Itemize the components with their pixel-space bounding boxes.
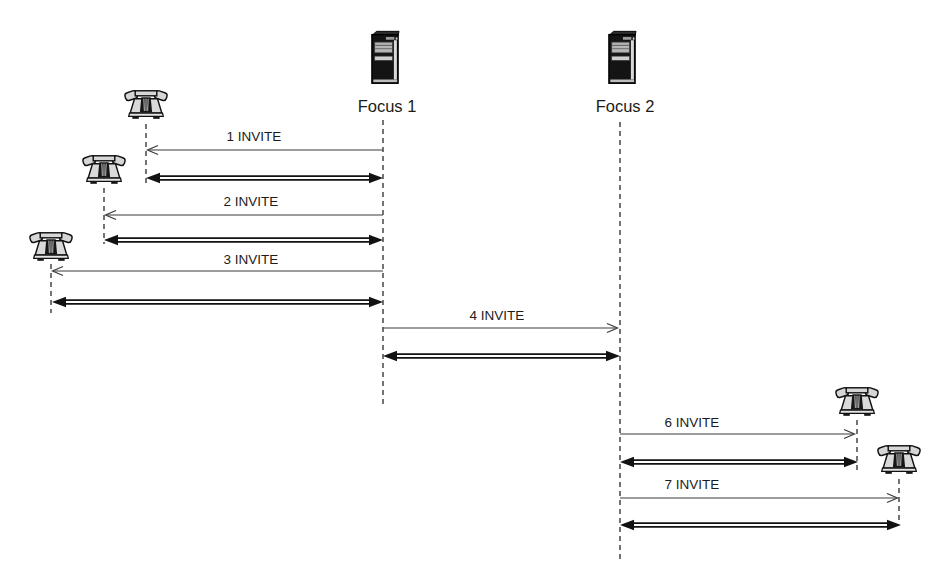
dialog-arrow	[104, 235, 383, 245]
request-arrow	[383, 324, 618, 333]
actor-label: Focus 2	[596, 97, 655, 115]
desk-telephone-icon	[82, 155, 126, 184]
message-label: 1 INVITE	[227, 129, 282, 144]
message-label: 3 INVITE	[224, 252, 279, 267]
desk-telephone-icon	[835, 387, 879, 416]
scanned-figure-page: 1 INVITE 2 INVITE	[0, 0, 944, 585]
lifelines	[51, 120, 899, 562]
server-tower-icon	[609, 31, 636, 83]
actor-focus-2: Focus 2	[596, 31, 655, 115]
request-arrow	[53, 267, 384, 276]
dialog-arrow	[620, 520, 901, 530]
actor-phone-5	[877, 445, 921, 474]
actor-phone-1	[124, 90, 168, 119]
request-arrow	[620, 430, 855, 439]
dialog-arrow	[620, 457, 858, 467]
server-tower-icon	[372, 31, 399, 83]
message-3-invite: 3 INVITE	[52, 252, 383, 307]
dialog-arrow	[52, 297, 383, 307]
desk-telephone-icon	[124, 90, 168, 119]
message-4-invite: 4 INVITE	[383, 308, 620, 361]
actor-focus-1: Focus 1	[358, 31, 417, 115]
request-arrow	[106, 211, 384, 220]
message-2-invite: 2 INVITE	[104, 194, 383, 245]
dialog-arrow	[383, 351, 620, 361]
message-7-invite: 7 INVITE	[620, 477, 901, 530]
actor-phone-4	[835, 387, 879, 416]
message-label: 2 INVITE	[224, 194, 279, 209]
message-label: 6 INVITE	[665, 415, 720, 430]
actor-phone-3	[29, 232, 73, 261]
request-arrow	[620, 494, 898, 503]
actor-phone-2	[82, 155, 126, 184]
message-6-invite: 6 INVITE	[620, 415, 858, 467]
message-label: 7 INVITE	[665, 477, 720, 492]
desk-telephone-icon	[877, 445, 921, 474]
sequence-diagram: 1 INVITE 2 INVITE	[0, 0, 944, 585]
actor-label: Focus 1	[358, 97, 417, 115]
request-arrow	[148, 146, 384, 155]
message-1-invite: 1 INVITE	[146, 129, 383, 183]
desk-telephone-icon	[29, 232, 73, 261]
message-label: 4 INVITE	[470, 308, 525, 323]
dialog-arrow	[146, 173, 383, 183]
